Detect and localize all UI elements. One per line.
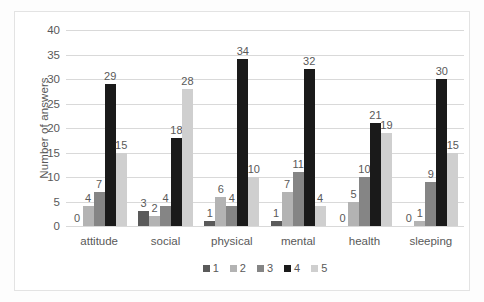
bar[interactable] [83, 206, 94, 226]
bar-group-bars: 0472915 [66, 30, 132, 226]
legend-label: 2 [240, 262, 246, 274]
bar-slot: 2 [149, 30, 160, 226]
bar-slot: 15 [116, 30, 127, 226]
bar[interactable] [149, 216, 160, 226]
bar[interactable] [105, 84, 116, 226]
bar-group: 0472915attitude [66, 30, 132, 226]
bar[interactable] [171, 138, 182, 226]
bar[interactable] [293, 172, 304, 226]
bar-slot: 9 [425, 30, 436, 226]
bar-slot: 15 [447, 30, 458, 226]
y-axis-tick-label: 30 [47, 73, 60, 85]
x-axis-label: mental [265, 235, 331, 247]
bar-value-label: 5 [350, 189, 356, 200]
legend-item[interactable]: 5 [311, 262, 327, 274]
bar[interactable] [315, 206, 326, 226]
legend-item[interactable]: 4 [284, 262, 300, 274]
bar[interactable] [370, 123, 381, 226]
bar-slot: 1 [271, 30, 282, 226]
bar-value-label: 10 [248, 164, 260, 175]
bar-value-label: 29 [104, 71, 116, 82]
bar-group: 3241828social [132, 30, 198, 226]
bar[interactable] [237, 59, 248, 226]
x-axis-label: social [132, 235, 198, 247]
legend-item[interactable]: 1 [203, 262, 219, 274]
bar-chart: Number of answers 4035302520151050 04729… [0, 0, 484, 302]
bar[interactable] [381, 133, 392, 226]
y-axis-tick-label: 0 [54, 220, 60, 232]
bar-value-label: 1 [273, 208, 279, 219]
legend-swatch-icon [203, 265, 210, 272]
bar[interactable] [215, 197, 226, 226]
bar-value-label: 10 [358, 164, 370, 175]
bar[interactable] [304, 69, 315, 226]
bar-value-label: 1 [207, 208, 213, 219]
y-axis-tick-label: 35 [47, 49, 60, 61]
bar-value-label: 4 [317, 193, 323, 204]
bar[interactable] [138, 211, 149, 226]
bar-slot: 10 [248, 30, 259, 226]
bar[interactable] [248, 177, 259, 226]
bar-slot: 34 [237, 30, 248, 226]
bar-group: 0193015sleeping [398, 30, 464, 226]
x-axis-label: physical [199, 235, 265, 247]
bar-value-label: 28 [181, 76, 193, 87]
bar[interactable] [282, 192, 293, 226]
bar-value-label: 6 [218, 184, 224, 195]
bar-slot: 1 [204, 30, 215, 226]
legend-swatch-icon [311, 265, 318, 272]
bar-value-label: 2 [151, 203, 157, 214]
bar-groups: 0472915attitude3241828social1643410physi… [66, 30, 464, 226]
bar[interactable] [414, 221, 425, 226]
bar-group-bars: 1711324 [265, 30, 331, 226]
bar[interactable] [271, 221, 282, 226]
legend-swatch-icon [230, 265, 237, 272]
bar[interactable] [436, 79, 447, 226]
y-axis-tick-label: 15 [47, 147, 60, 159]
bar-slot: 30 [436, 30, 447, 226]
y-axis-tick-label: 10 [47, 171, 60, 183]
bar-slot: 3 [138, 30, 149, 226]
bar-value-label: 7 [284, 179, 290, 190]
bar-group-bars: 05102119 [331, 30, 397, 226]
legend-label: 5 [321, 262, 327, 274]
bar-value-label: 0 [339, 213, 345, 224]
bar-slot: 28 [182, 30, 193, 226]
bar-slot: 7 [94, 30, 105, 226]
bar-value-label: 7 [96, 179, 102, 190]
bar-group-bars: 1643410 [199, 30, 265, 226]
y-axis-tick-label: 25 [47, 98, 60, 110]
bar-value-label: 15 [115, 140, 127, 151]
y-axis-tick-label: 20 [47, 122, 60, 134]
bar-slot: 4 [226, 30, 237, 226]
bar[interactable] [182, 89, 193, 226]
bar-slot: 6 [215, 30, 226, 226]
bar-slot: 29 [105, 30, 116, 226]
bar[interactable] [359, 177, 370, 226]
bar-value-label: 15 [447, 140, 459, 151]
bar[interactable] [348, 202, 359, 227]
legend-item[interactable]: 3 [257, 262, 273, 274]
bar-value-label: 4 [85, 193, 91, 204]
bar-slot: 5 [348, 30, 359, 226]
bar-value-label: 18 [170, 125, 182, 136]
bar[interactable] [94, 192, 105, 226]
legend-swatch-icon [284, 265, 291, 272]
bar[interactable] [447, 153, 458, 227]
bar[interactable] [116, 153, 127, 227]
bar[interactable] [425, 182, 436, 226]
bar-group: 1643410physical [199, 30, 265, 226]
bar-slot: 19 [381, 30, 392, 226]
bar-value-label: 32 [303, 56, 315, 67]
x-axis-label: attitude [66, 235, 132, 247]
bar-slot: 0 [72, 30, 83, 226]
legend-item[interactable]: 2 [230, 262, 246, 274]
bar-slot: 4 [83, 30, 94, 226]
bar-value-label: 0 [406, 213, 412, 224]
bar[interactable] [226, 206, 237, 226]
bar-group: 1711324mental [265, 30, 331, 226]
bar[interactable] [160, 206, 171, 226]
y-axis-tick-label: 40 [47, 24, 60, 36]
bar[interactable] [204, 221, 215, 226]
bar-slot: 4 [160, 30, 171, 226]
